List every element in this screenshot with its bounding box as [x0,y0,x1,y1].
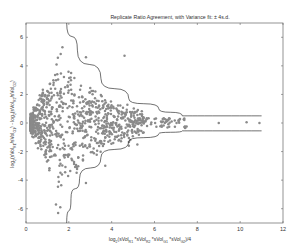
x-tick-label: 6 [153,226,156,232]
data-points [29,46,261,214]
y-tick-label: 2 [20,91,23,97]
chart-title: Replicate Ratio Agreement, with Variance… [110,14,229,20]
x-tick-label: 10 [237,226,243,232]
x-axis-label: log2(sVolR1 *sVolR2 *sVolG1 *sVolG2)/4 [109,236,192,244]
y-tick-label: -2 [18,149,23,155]
x-tick-label: 4 [110,226,113,232]
y-tick-label: -6 [18,206,23,212]
y-tick-label: 6 [20,34,23,40]
x-axis-ticks: 024681012 [24,23,286,232]
x-tick-label: 8 [196,226,199,232]
y-tick-label: 4 [20,63,23,69]
envelope-upper-curve [67,23,262,116]
y-tick-label: 0 [20,120,23,126]
x-tick-label: 0 [24,226,27,232]
x-tick-label: 2 [67,226,70,232]
y-tick-label: -4 [18,177,23,183]
envelope-lower-curve [67,131,262,223]
y-axis-label: log2(sVolR1/sVolG1) - log2(sVolR2/sVolG2… [9,80,17,168]
x-tick-label: 12 [280,226,286,232]
scatter-chart: Replicate Ratio Agreement, with Variance… [0,0,294,249]
